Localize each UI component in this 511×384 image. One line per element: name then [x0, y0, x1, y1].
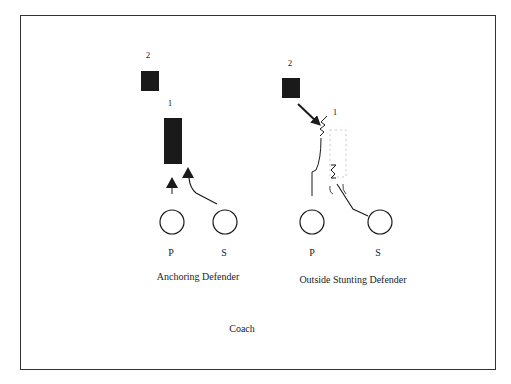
right-stunt-arrow-icon: [298, 104, 318, 123]
left-p-arrow-icon: [166, 177, 178, 194]
right-defender-2-label: 2: [288, 59, 293, 68]
footer-coach-label: Coach: [229, 324, 255, 334]
right-s-block-path: [337, 184, 368, 216]
left-s-arrow-icon: [182, 167, 217, 204]
diagram-canvas: 2 1 P S Anchoring Defender 2 1 P S Outsi…: [0, 0, 511, 384]
right-zigzag-bottom: [331, 165, 336, 178]
right-blocker-p-label: P: [309, 248, 315, 258]
right-p-block-path: [312, 138, 321, 196]
right-diagram-caption: Outside Stunting Defender: [299, 275, 406, 285]
right-blocker-s-label: S: [375, 248, 381, 258]
right-diagram: [282, 78, 392, 234]
left-diagram-caption: Anchoring Defender: [157, 272, 239, 282]
left-blocker-p-label: P: [168, 248, 174, 258]
left-defender-2-square: [141, 71, 159, 91]
right-blocker-p-circle: [300, 210, 324, 234]
diagram-graphics: [0, 0, 511, 384]
right-ghost-position: [330, 130, 346, 177]
right-blocker-s-circle: [368, 210, 392, 234]
left-blocker-s-circle: [213, 210, 237, 234]
left-diagram: [141, 71, 237, 234]
right-zigzag-top: [320, 116, 327, 136]
left-blocker-s-label: S: [221, 248, 227, 258]
left-defender-1-label: 1: [168, 99, 173, 108]
right-defender-2-square: [282, 78, 300, 98]
left-defender-1-rect: [164, 118, 182, 164]
right-defender-1-label: 1: [333, 108, 338, 117]
left-defender-2-label: 2: [146, 51, 151, 60]
left-blocker-p-circle: [160, 210, 184, 234]
